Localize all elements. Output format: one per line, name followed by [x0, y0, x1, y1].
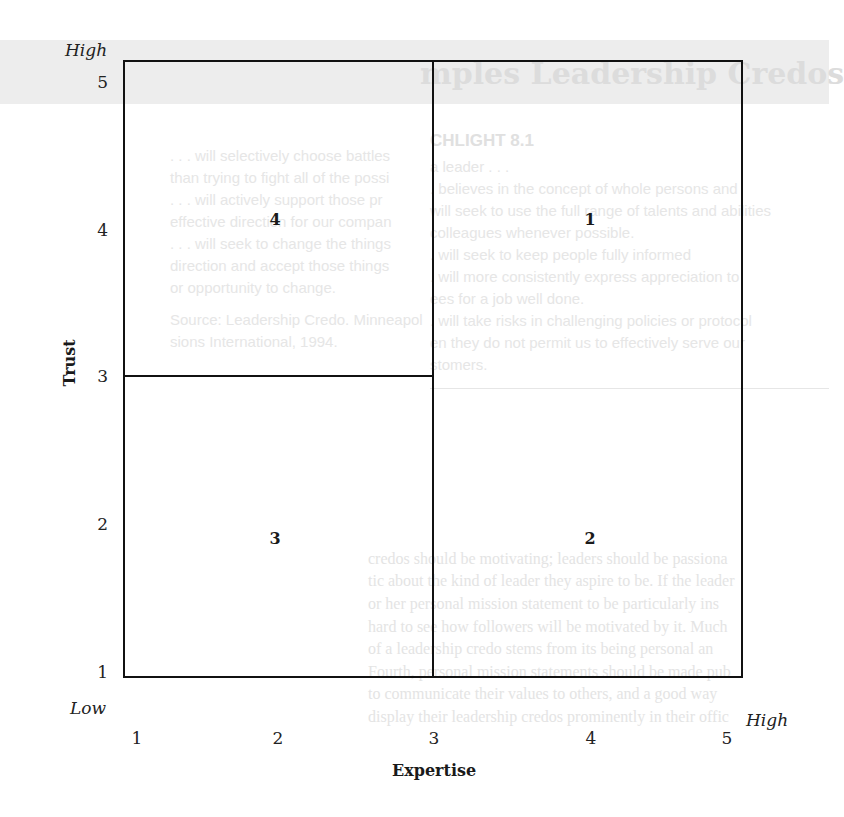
horizontal-divider-left	[123, 375, 434, 377]
y-axis-low-label: Low	[70, 700, 106, 717]
y-tick-1: 1	[78, 664, 108, 681]
quadrant-score-lower-right: 2	[580, 531, 600, 547]
quadrant-score-lower-left: 3	[265, 531, 285, 547]
y-axis-title: Trust	[62, 339, 78, 386]
x-tick-5: 5	[717, 730, 737, 747]
x-axis-high-label: High	[746, 712, 788, 729]
y-tick-2: 2	[78, 516, 108, 533]
y-tick-4: 4	[78, 222, 108, 239]
x-tick-4: 4	[581, 730, 601, 747]
vertical-divider	[432, 60, 434, 678]
divider-joint	[432, 374, 433, 376]
x-tick-3: 3	[424, 730, 444, 747]
x-tick-1: 1	[127, 730, 147, 747]
x-axis-title: Expertise	[392, 763, 476, 779]
x-tick-2: 2	[268, 730, 288, 747]
quadrant-score-upper-right: 1	[580, 212, 600, 228]
y-axis-high-label: High	[65, 42, 107, 59]
quadrant-score-upper-left: 4	[265, 212, 285, 228]
y-tick-3: 3	[78, 368, 108, 385]
y-tick-5: 5	[78, 74, 108, 91]
